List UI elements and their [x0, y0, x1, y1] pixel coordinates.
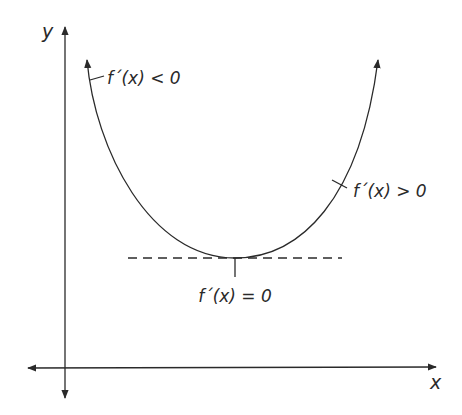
derivative-sign-diagram: y x f´(x) = 0 f´(x) < 0 f´(x) > 0	[0, 0, 462, 415]
x-axis	[28, 367, 436, 368]
decreasing-label: f´(x) < 0	[107, 68, 181, 88]
decreasing-label-leader	[90, 76, 104, 80]
y-axis-label: y	[41, 20, 54, 42]
function-curve	[87, 60, 378, 258]
increasing-label-leader	[332, 180, 347, 188]
increasing-label: f´(x) > 0	[353, 181, 427, 201]
minimum-label: f´(x) = 0	[198, 286, 272, 306]
x-axis-label: x	[429, 371, 442, 393]
